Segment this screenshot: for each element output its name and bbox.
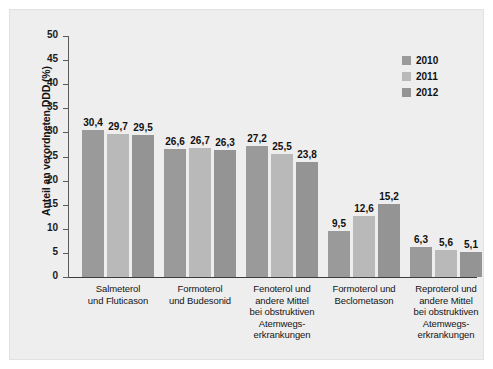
bar-2010[interactable]: 6,3 (410, 247, 432, 277)
bar-value-label: 26,3 (215, 137, 234, 148)
category-label-line: erkrankungen (234, 329, 330, 341)
bar-value-label: 15,2 (379, 191, 398, 202)
bar-value-label: 29,7 (108, 121, 127, 132)
bar-value-label: 30,4 (83, 117, 102, 128)
legend-item-2010[interactable]: 2010 (402, 54, 438, 66)
bar-2012[interactable]: 26,3 (214, 150, 236, 277)
bar-value-label: 26,7 (190, 135, 209, 146)
category-label-line: andere Mittel (398, 295, 493, 307)
bar-group: 9,512,615,2 (328, 36, 400, 277)
y-tick-label: 10 (47, 222, 58, 233)
bar-group: 26,626,726,3 (164, 36, 236, 277)
bar-value-label: 25,5 (272, 141, 291, 152)
legend-swatch-icon (402, 72, 411, 81)
chart-legend: 201020112012 (402, 54, 438, 102)
bar-group: 27,225,523,8 (246, 36, 318, 277)
legend-label: 2011 (416, 71, 438, 82)
bar-2011[interactable]: 5,6 (435, 250, 457, 277)
y-tick-label: 15 (47, 198, 58, 209)
y-tick-label: 50 (47, 29, 58, 40)
bar-value-label: 12,6 (354, 203, 373, 214)
y-tick-label: 35 (47, 101, 58, 112)
bar-2011[interactable]: 25,5 (271, 154, 293, 277)
bar-value-label: 27,2 (247, 133, 266, 144)
bar-value-label: 5,6 (439, 237, 453, 248)
bar-value-label: 5,1 (464, 239, 478, 250)
category-label-line: Atemwegs- (234, 318, 330, 330)
bar-2012[interactable]: 5,1 (460, 252, 482, 277)
y-axis-title: Anteil an verordneten DDD (%) (40, 36, 52, 246)
y-tick-label: 20 (47, 174, 58, 185)
bar-value-label: 6,3 (414, 234, 428, 245)
bar-2012[interactable]: 15,2 (378, 204, 400, 277)
category-label-line: bei obstruktiven (234, 306, 330, 318)
legend-swatch-icon (402, 56, 411, 65)
bar-value-label: 9,5 (332, 218, 346, 229)
legend-item-2012[interactable]: 2012 (402, 86, 438, 98)
bar-value-label: 26,6 (165, 136, 184, 147)
bar-group: 30,429,729,5 (82, 36, 154, 277)
category-label-line: bei obstruktiven (398, 306, 493, 318)
bar-2012[interactable]: 23,8 (296, 162, 318, 277)
bar-2011[interactable]: 26,7 (189, 148, 211, 277)
bar-2010[interactable]: 30,4 (82, 130, 104, 277)
y-tick-label: 30 (47, 125, 58, 136)
legend-swatch-icon (402, 88, 411, 97)
category-label-line: Atemwegs- (398, 318, 493, 330)
bar-2011[interactable]: 12,6 (353, 216, 375, 277)
y-tick-label: 0 (52, 270, 58, 281)
bar-2010[interactable]: 26,6 (164, 149, 186, 277)
bar-2011[interactable]: 29,7 (107, 134, 129, 277)
legend-item-2011[interactable]: 2011 (402, 70, 438, 82)
y-tick-label: 5 (52, 246, 58, 257)
bar-value-label: 23,8 (297, 149, 316, 160)
category-label: Reproterol undandere Mittelbei obstrukti… (398, 283, 493, 341)
y-tick-label: 40 (47, 77, 58, 88)
category-label-line: erkrankungen (398, 329, 493, 341)
category-label-line: Reproterol und (398, 283, 493, 295)
bar-2010[interactable]: 9,5 (328, 231, 350, 277)
legend-label: 2012 (416, 87, 438, 98)
y-tick-0: 0 (63, 277, 69, 278)
bar-value-label: 29,5 (133, 122, 152, 133)
bar-2012[interactable]: 29,5 (132, 135, 154, 277)
bar-2010[interactable]: 27,2 (246, 146, 268, 277)
y-tick-label: 45 (47, 53, 58, 64)
chart-figure: Anteil an verordneten DDD (%) 5045403530… (9, 9, 484, 360)
x-axis-line (68, 277, 477, 278)
legend-label: 2010 (416, 55, 438, 66)
y-tick-label: 25 (47, 150, 58, 161)
